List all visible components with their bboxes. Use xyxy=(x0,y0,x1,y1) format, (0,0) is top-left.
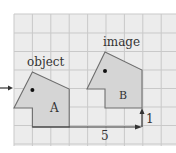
shape-a-label: A xyxy=(49,101,59,115)
image-dot xyxy=(103,69,107,73)
vertical-shift-label: 1 xyxy=(146,112,154,126)
object-dot xyxy=(30,88,34,92)
image-label: image xyxy=(103,35,140,49)
object-label: object xyxy=(27,55,64,69)
pointer-arrow-icon xyxy=(0,86,13,91)
translation-diagram: A object B image 5 1 xyxy=(0,0,176,153)
horizontal-shift-label: 5 xyxy=(101,129,109,143)
shape-b-label: B xyxy=(119,89,127,102)
